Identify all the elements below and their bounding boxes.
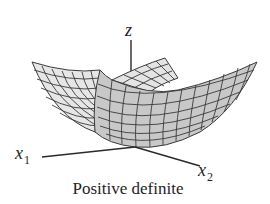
x1-label-text: x [15,143,23,163]
x1-axis [42,147,135,157]
positive-definite-figure: z x1 x2 Positive definite [0,0,270,204]
x2-label-text: x [198,160,206,180]
z-axis-label: z [125,20,132,41]
x1-axis-label: x1 [15,143,30,164]
x1-subscript: 1 [24,153,30,167]
figure-caption: Positive definite [0,179,256,199]
x2-axis-label: x2 [198,160,213,181]
x2-axis [135,147,200,166]
z-label-text: z [125,20,132,40]
surface-plot [0,0,270,204]
